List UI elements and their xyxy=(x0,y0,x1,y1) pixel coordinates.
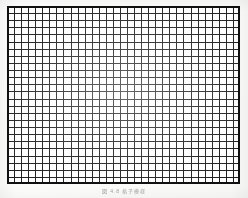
grid-accent-lines xyxy=(7,6,240,184)
grid-chart-plate xyxy=(7,6,240,184)
figure-caption: 図 4.8 格子模様 xyxy=(0,188,248,194)
figure-root: 図 4.8 格子模様 xyxy=(0,0,248,198)
